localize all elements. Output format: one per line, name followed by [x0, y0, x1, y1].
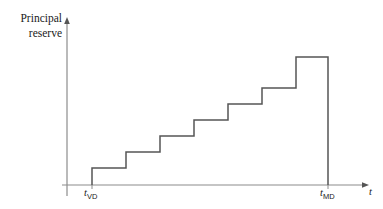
y-axis-arrowhead — [64, 17, 70, 24]
x-axis-title: t — [369, 186, 372, 197]
x-tick-label-valuation-date: tVD — [84, 187, 98, 201]
principal-reserve-step-chart: Principal reserve tVD tMD t — [0, 0, 383, 209]
tick-subscript-md: MD — [323, 192, 335, 201]
tick-subscript-vd: VD — [87, 192, 98, 201]
y-axis-title-line-2: reserve — [4, 26, 62, 41]
step-function-curve — [92, 57, 328, 185]
y-axis-title: Principal reserve — [4, 11, 62, 41]
x-tick-label-maturity-date: tMD — [320, 187, 335, 201]
x-axis-arrowhead — [362, 182, 369, 188]
y-axis-title-line-1: Principal — [4, 11, 62, 26]
